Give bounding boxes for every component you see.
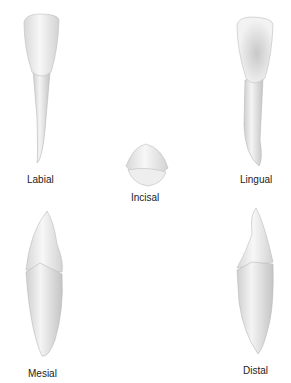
label-mesial: Mesial: [28, 368, 57, 379]
distal-tooth: [237, 208, 273, 354]
label-labial: Labial: [27, 174, 54, 185]
label-incisal: Incisal: [131, 192, 159, 203]
labial-tooth: [24, 14, 59, 163]
lingual-tooth: [237, 17, 273, 166]
mesial-tooth: [26, 211, 62, 356]
incisal-tooth: [126, 144, 168, 186]
label-lingual: Lingual: [240, 174, 272, 185]
label-distal: Distal: [243, 365, 268, 376]
